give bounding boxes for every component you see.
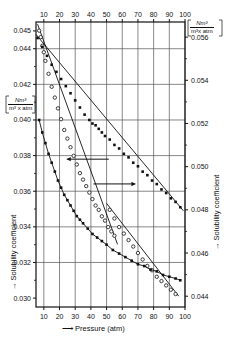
series-fit-line — [38, 24, 118, 244]
left-axis-unit-label: Nm³ m³ x atm — [8, 97, 33, 112]
left-axis-unit-denominator: m³ x atm — [8, 105, 33, 112]
y-left-tick-label: 0.045 — [13, 27, 31, 34]
y-right-tick-label: 0.050 — [191, 163, 209, 170]
data-point — [91, 122, 94, 125]
x-tick-label: 40 — [87, 313, 95, 320]
data-point — [130, 259, 133, 262]
data-point — [60, 78, 63, 81]
data-point — [72, 210, 75, 213]
x-tick-label: 20 — [56, 313, 64, 320]
x-tick-label: 60 — [118, 313, 126, 320]
data-point — [91, 233, 94, 236]
top-tick-label: 20 — [56, 11, 64, 18]
right-axis-unit-numerator: Nm³ — [190, 20, 214, 28]
data-point — [174, 277, 177, 280]
data-point — [75, 163, 78, 166]
annotation-arrow-head — [67, 157, 71, 161]
data-point — [74, 99, 77, 102]
data-point — [88, 119, 91, 122]
data-point — [136, 251, 139, 254]
data-point — [170, 197, 173, 200]
data-point — [69, 92, 72, 95]
data-point — [86, 227, 89, 230]
data-point — [75, 215, 78, 218]
series-trend-path — [39, 120, 180, 280]
data-point — [50, 85, 53, 88]
y-right-tick-label: 0.052 — [191, 120, 209, 127]
data-point — [143, 265, 146, 268]
data-point — [53, 96, 56, 99]
data-point — [84, 184, 87, 187]
data-point — [38, 119, 41, 122]
data-point — [174, 201, 177, 204]
y-right-tick-label: 0.048 — [191, 206, 209, 213]
y-left-tick-label: 0.036 — [13, 188, 31, 195]
top-tick-label: 100 — [179, 11, 191, 18]
x-axis-title: ⟶ Pressure (atm) — [62, 325, 125, 333]
data-point — [83, 113, 86, 116]
y-left-tick-label: 0.030 — [13, 295, 31, 302]
left-axis-title: → Solubility coefficient — [10, 215, 18, 290]
solubility-coefficient-chart: 1020304050607080901001020304050607080901… — [0, 0, 226, 342]
data-point — [37, 29, 40, 32]
data-point — [65, 85, 68, 88]
data-point — [56, 107, 59, 110]
data-point — [127, 156, 130, 159]
data-point — [174, 292, 177, 295]
right-axis-unit-denominator: m³x atm — [190, 28, 214, 35]
series-middle-curve — [107, 203, 179, 296]
right-unit-bracket-right — [219, 20, 222, 36]
data-point — [110, 230, 113, 233]
top-tick-label: 10 — [40, 11, 48, 18]
data-point — [60, 186, 63, 189]
data-point — [55, 71, 58, 74]
y-right-tick-label: 0.054 — [191, 77, 209, 84]
y-left-tick-label: 0.044 — [13, 45, 31, 52]
y-right-tick-label: 0.046 — [191, 250, 209, 257]
data-point — [36, 37, 39, 40]
x-tick-label: 70 — [134, 313, 142, 320]
top-tick-label: 50 — [103, 11, 111, 18]
data-point — [118, 147, 121, 150]
data-point — [97, 128, 100, 131]
data-point — [141, 170, 144, 173]
data-point — [100, 215, 103, 218]
data-point — [113, 144, 116, 147]
data-point — [66, 199, 69, 202]
data-point — [132, 245, 135, 248]
data-point — [108, 208, 111, 211]
x-axis-arrow: ⟶ — [62, 324, 73, 333]
data-point — [97, 208, 100, 211]
top-tick-label: 40 — [87, 11, 95, 18]
y-left-tick-label: 0.042 — [13, 81, 31, 88]
data-point — [42, 51, 45, 54]
data-point — [41, 46, 44, 49]
data-point — [113, 217, 116, 220]
data-point — [132, 161, 135, 164]
data-point — [160, 279, 163, 282]
data-point — [113, 234, 116, 237]
x-tick-label: 90 — [165, 313, 173, 320]
data-point — [127, 238, 130, 241]
left-axis-arrow: → — [9, 283, 18, 291]
right-axis-unit-label: Nm³ m³x atm — [190, 20, 214, 35]
data-point — [151, 179, 154, 182]
data-point — [101, 131, 104, 134]
data-point — [122, 232, 125, 235]
arrow-to-right-axis — [93, 182, 135, 186]
left-axis-title-label: Solubility coefficient — [9, 215, 18, 281]
data-point — [47, 153, 50, 156]
top-tick-label: 70 — [134, 11, 142, 18]
data-point — [54, 170, 57, 173]
x-tick-label: 50 — [103, 313, 111, 320]
top-tick-label: 30 — [71, 11, 79, 18]
series-upper-curve — [37, 24, 117, 244]
data-point — [57, 179, 60, 182]
data-point — [104, 135, 107, 138]
right-axis-title-label: Solubility coefficient — [212, 175, 221, 241]
data-point — [66, 137, 69, 140]
data-point — [50, 161, 53, 164]
data-point — [91, 197, 94, 200]
y-left-tick-label: 0.038 — [13, 152, 31, 159]
data-point — [141, 258, 144, 261]
